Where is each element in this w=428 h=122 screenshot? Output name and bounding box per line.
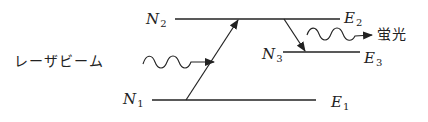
fluorescence-wave-icon [307, 28, 372, 40]
label-e1: E1 [331, 95, 349, 112]
label-e2: E2 [344, 11, 362, 28]
laser-beam-label: レーザビーム [14, 54, 104, 68]
label-e3: E3 [364, 51, 382, 68]
fluorescence-label: 蛍光 [377, 27, 407, 41]
laser-wave-icon [143, 56, 214, 68]
label-n3: N3 [262, 47, 283, 64]
label-n2: N2 [146, 12, 167, 29]
label-n1: N1 [123, 92, 144, 109]
relaxation-arrow [284, 19, 305, 51]
excitation-arrow [186, 20, 238, 100]
